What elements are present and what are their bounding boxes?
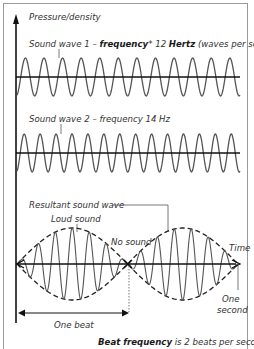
y-axis-label: Pressure/density bbox=[29, 12, 102, 22]
beat-right-arrow-icon bbox=[122, 310, 129, 317]
wave1-label: Sound wave 1 – frequency* 12 Hertz (wave… bbox=[29, 39, 254, 49]
beat-left-arrow-icon bbox=[18, 310, 25, 317]
beat-frequency-caption: Beat frequency is 2 beats per second. bbox=[98, 337, 254, 347]
one-second-label-1: One bbox=[222, 294, 240, 304]
wave2-label: Sound wave 2 – frequency 14 Hz bbox=[29, 114, 171, 124]
y-axis-arrow-icon bbox=[13, 14, 19, 24]
one-second-label-2: second bbox=[217, 305, 248, 315]
loud-sound-label: Loud sound bbox=[51, 214, 101, 224]
beat-frequency-diagram: Pressure/density Sound wave 1 – frequenc… bbox=[0, 0, 254, 349]
one-beat-label: One beat bbox=[54, 320, 94, 330]
time-label: Time bbox=[229, 243, 250, 253]
resultant-label: Resultant sound wave bbox=[29, 200, 124, 210]
